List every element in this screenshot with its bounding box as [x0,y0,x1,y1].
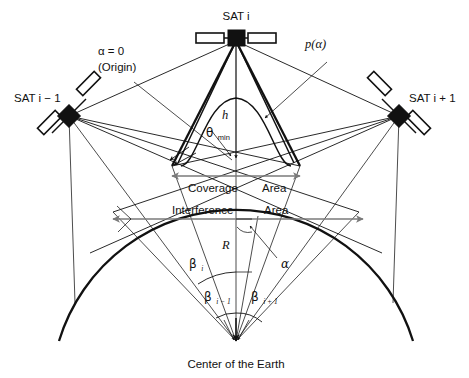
left-satellite-links [69,41,382,303]
interference-area-measure: Interference Area [113,204,363,219]
coverage-label-right: Area [262,182,287,194]
alpha-angle-indicator [237,226,277,258]
earth-center-label: Center of the Earth [187,358,284,370]
theta-subscript: min [218,133,230,142]
right-satellite-links [90,41,399,303]
origin-alpha-label: α = 0 [98,45,124,57]
radius-label: R [221,238,230,252]
satellite-center-icon[interactable] [196,30,276,46]
alpha-label: α [281,257,289,271]
theta-glyph: θ [206,126,213,140]
sat-center-label: SAT i [222,10,249,22]
altitude-label: h [222,108,228,122]
interference-label-left: Interference [172,204,233,216]
origin-leader-line [134,82,232,160]
beta-i-label: β i [189,254,203,273]
sat-left-label: SAT i − 1 [14,92,61,104]
origin-note-label: (Origin) [98,61,137,73]
interference-label-right: Area [264,204,289,216]
pattern-label: p(α) [304,37,326,51]
sat-right-label: SAT i + 1 [409,92,456,104]
coverage-label-left: Coverage [188,182,238,194]
figure-canvas: Coverage Area Interference Area [0,0,469,378]
satellite-geometry-svg: Coverage Area Interference Area [0,0,469,378]
beta-i-plus-1-label: β i + 1 [251,287,278,306]
theta-min-label: θ min [206,123,230,142]
pattern-leader-line [265,62,327,118]
